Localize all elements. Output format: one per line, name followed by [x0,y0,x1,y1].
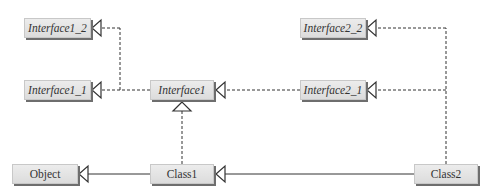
hollow-triangle-arrow-icon [216,166,225,182]
node-interface1_1: Interface1_1 [24,80,91,100]
node-class1: Class1 [150,164,214,184]
hollow-triangle-arrow-icon [367,82,376,98]
hollow-triangle-arrow-icon [367,20,376,36]
node-interface2_2: Interface2_2 [300,18,366,38]
hollow-triangle-arrow-icon [79,166,88,182]
node-object: Object [12,164,78,184]
node-interface1: Interface1 [150,80,214,100]
hollow-triangle-arrow-icon [173,102,191,111]
hollow-triangle-arrow-icon [92,82,101,98]
uml-diagram: Interface1_2 Interface1_1 Interface1 Int… [0,0,490,194]
hollow-triangle-arrow-icon [216,82,225,98]
node-interface1_2: Interface1_2 [24,18,91,38]
node-class2: Class2 [414,164,478,184]
node-interface2_1: Interface2_1 [300,80,366,100]
hollow-triangle-arrow-icon [92,20,101,36]
